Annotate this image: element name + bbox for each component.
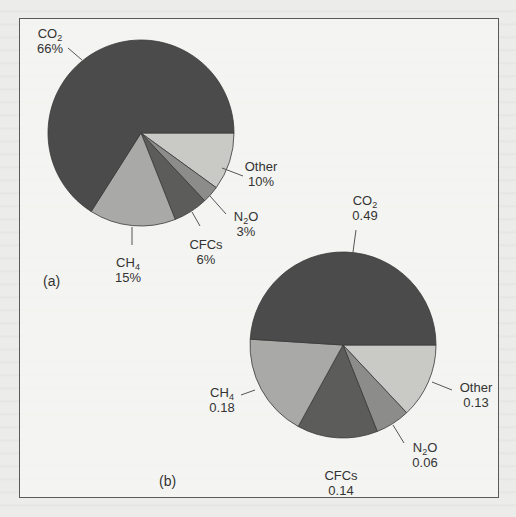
pie-chart-b <box>250 252 436 438</box>
label-text: CH <box>210 385 229 400</box>
leader-line-a-cfcs <box>192 212 200 226</box>
label-value: 0.13 <box>463 395 488 410</box>
label-value: 6% <box>197 252 216 267</box>
label-text: CFCs <box>324 468 357 483</box>
panel-label-a: (a) <box>43 273 60 289</box>
leader-line-b-ch4 <box>241 390 255 395</box>
label-text: N <box>413 440 422 455</box>
label-a-co2: CO2 66% <box>30 26 70 56</box>
label-text: CH <box>116 255 135 270</box>
pie-slice-co2 <box>250 252 436 345</box>
label-value: 3% <box>237 224 256 239</box>
label-text: N <box>234 209 243 224</box>
label-text-tail: O <box>248 209 258 224</box>
label-value: 66% <box>37 41 63 56</box>
leader-line-b-co2 <box>353 230 356 252</box>
label-b-co2: CO2 0.49 <box>345 193 385 223</box>
label-text: CO <box>353 193 373 208</box>
label-text: CO <box>38 26 58 41</box>
label-text: CFCs <box>189 237 222 252</box>
leader-line-a-n2o <box>210 196 226 214</box>
label-a-n2o: N2O 3% <box>228 209 264 239</box>
label-text: Other <box>245 159 278 174</box>
leader-line-b-n2o <box>393 425 404 443</box>
label-value: 10% <box>248 174 274 189</box>
label-a-cfcs: CFCs 6% <box>186 237 226 267</box>
label-b-other: Other 0.13 <box>454 380 498 410</box>
label-a-other: Other 10% <box>236 159 286 189</box>
label-b-n2o: N2O 0.06 <box>406 440 444 470</box>
label-value: 0.49 <box>352 208 377 223</box>
label-text: Other <box>460 380 493 395</box>
label-a-ch4: CH4 15% <box>108 255 148 285</box>
label-value: 0.18 <box>209 400 234 415</box>
label-text-tail: O <box>427 440 437 455</box>
label-b-ch4: CH4 0.18 <box>202 385 242 415</box>
label-b-cfcs: CFCs 0.14 <box>320 468 362 498</box>
panel-label-b: (b) <box>159 473 176 489</box>
leader-line-a-co2 <box>68 48 82 60</box>
label-value: 0.06 <box>412 455 437 470</box>
pie-chart-a <box>48 40 234 226</box>
label-value: 0.14 <box>328 483 353 498</box>
leader-line-b-other <box>432 382 452 390</box>
label-value: 15% <box>115 270 141 285</box>
